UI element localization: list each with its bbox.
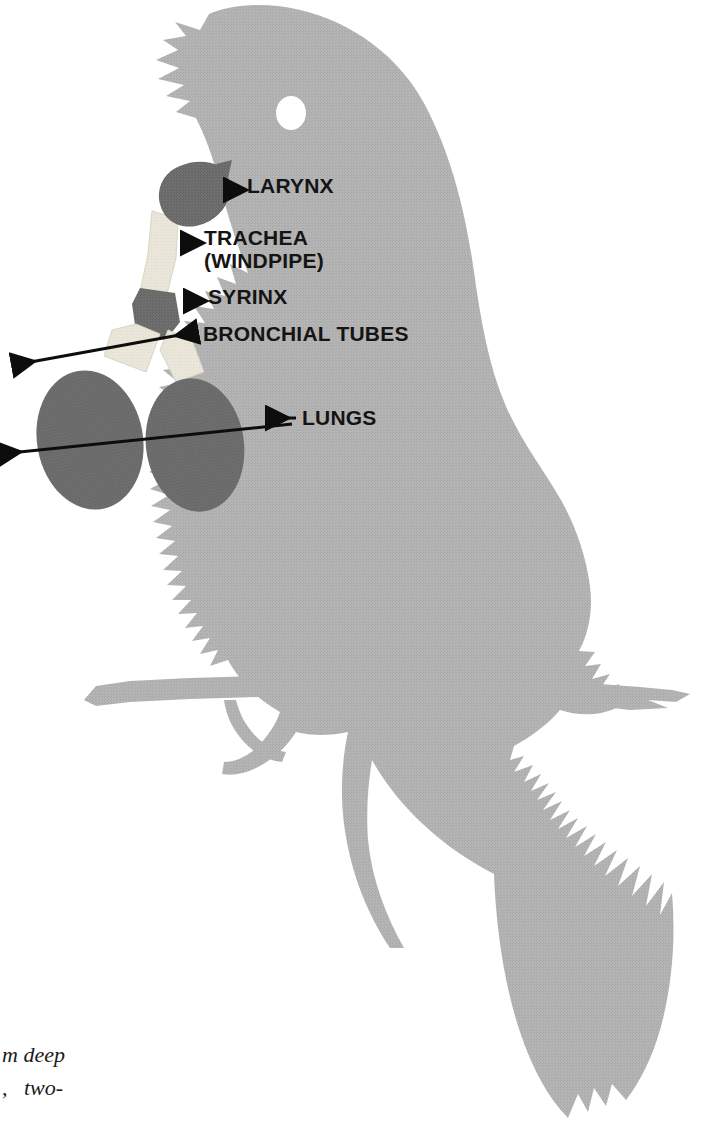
label-larynx: LARYNX xyxy=(247,174,334,197)
caption-line-2: , two- xyxy=(2,1071,63,1104)
trachea-shape xyxy=(140,211,178,298)
caption-line-1: m deep xyxy=(2,1038,65,1071)
label-lungs: LUNGS xyxy=(302,406,377,429)
label-trachea-windpipe: (WINDPIPE) xyxy=(204,249,324,272)
bird-eye xyxy=(276,96,306,130)
bird-respiratory-diagram xyxy=(0,0,702,1121)
label-syrinx: SYRINX xyxy=(208,285,287,308)
larynx-shape xyxy=(159,160,232,227)
label-trachea: TRACHEA xyxy=(204,226,308,249)
label-bronchial-tubes: BRONCHIAL TUBES xyxy=(203,322,409,345)
